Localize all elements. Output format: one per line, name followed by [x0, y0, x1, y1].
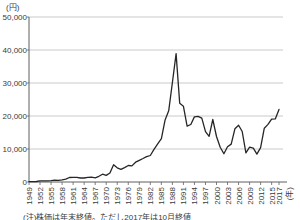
x-tick-label: 2003	[224, 186, 233, 204]
x-tick-label: 1961	[69, 186, 78, 204]
chart-canvas: 010,00020,00030,00040,00050,000194919521…	[0, 0, 300, 220]
x-tick-label: 1985	[157, 186, 166, 204]
y-tick-label: 50,000	[3, 13, 28, 22]
x-tick-label: 2017	[275, 186, 284, 204]
x-tick-label: 2006	[235, 186, 244, 204]
x-axis-unit-label: (年)	[284, 187, 294, 201]
x-tick-label: 1988	[168, 186, 177, 204]
x-tick-label: 2012	[257, 186, 266, 204]
x-tick-label: 1970	[102, 186, 111, 204]
x-tick-label: 2000	[213, 186, 222, 204]
x-tick-label: 1958	[58, 186, 67, 204]
y-tick-label: 10,000	[3, 145, 28, 154]
x-tick-label: 1949	[25, 186, 34, 204]
x-tick-label: 1979	[135, 186, 144, 204]
y-tick-label: 20,000	[3, 112, 28, 121]
x-tick-label: 1976	[124, 186, 133, 204]
chart-footnote: (注)株価は年末終値。ただし2017年は10月終値	[23, 211, 191, 220]
x-tick-label: 1997	[201, 186, 210, 204]
x-tick-label: 1982	[146, 186, 155, 204]
x-tick-label: 1955	[47, 186, 56, 204]
x-tick-label: 1991	[179, 186, 188, 204]
x-tick-label: 2009	[246, 186, 255, 204]
y-tick-label: 40,000	[3, 46, 28, 55]
price-line	[29, 54, 279, 182]
y-axis-unit-label: (円)	[6, 1, 19, 12]
x-tick-label: 1952	[36, 186, 45, 204]
y-tick-label: 0	[23, 178, 28, 187]
x-tick-label: 1994	[190, 186, 199, 204]
x-tick-label: 1964	[80, 186, 89, 204]
x-tick-label: 1967	[91, 186, 100, 204]
x-tick-label: 1973	[113, 186, 122, 204]
y-tick-label: 30,000	[3, 79, 28, 88]
stock-price-chart: 010,00020,00030,00040,00050,000194919521…	[0, 0, 300, 220]
